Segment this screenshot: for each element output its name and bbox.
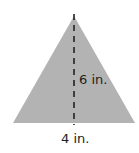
base-label: 4 in. — [61, 131, 89, 146]
height-label: 6 in. — [79, 72, 107, 87]
